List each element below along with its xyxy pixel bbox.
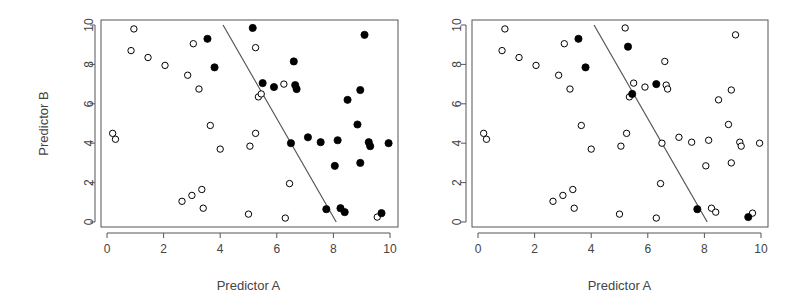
open-data-point xyxy=(207,122,213,128)
y-axis-title: Predictor B xyxy=(36,91,51,155)
open-data-point xyxy=(738,143,744,149)
filled-data-point xyxy=(331,162,338,169)
open-data-point xyxy=(217,146,223,152)
open-data-point xyxy=(659,140,665,146)
filled-data-point xyxy=(287,140,294,147)
open-data-point xyxy=(245,211,251,217)
filled-data-point xyxy=(204,35,211,42)
x-tick-label: 8 xyxy=(330,242,337,256)
filled-data-point xyxy=(582,64,589,71)
filled-data-point xyxy=(694,206,701,213)
open-data-point xyxy=(499,47,505,53)
y-tick-label: 6 xyxy=(82,100,96,107)
x-tick-label: 6 xyxy=(273,242,280,256)
open-data-point xyxy=(676,134,682,140)
scatter-plots: 0246810Predictor A0246810Predictor B 024… xyxy=(0,0,803,308)
y-tick-label: 10 xyxy=(82,18,96,32)
open-data-point xyxy=(728,87,734,93)
filled-data-point xyxy=(624,43,631,50)
open-data-point xyxy=(252,44,258,50)
open-data-point xyxy=(184,72,190,78)
open-data-point xyxy=(713,209,719,215)
open-data-point xyxy=(199,186,205,192)
y-tick-label: 10 xyxy=(450,18,464,32)
open-data-point xyxy=(145,54,151,60)
open-data-point xyxy=(725,121,731,127)
open-data-point xyxy=(732,32,738,38)
open-data-point xyxy=(196,86,202,92)
filled-data-point xyxy=(653,81,660,88)
y-tick-label: 0 xyxy=(82,218,96,225)
filled-data-point xyxy=(293,85,300,92)
open-data-point xyxy=(109,130,115,136)
open-data-point xyxy=(578,122,584,128)
open-data-point xyxy=(630,80,636,86)
plot-frame xyxy=(472,20,768,227)
filled-data-point xyxy=(367,143,374,150)
open-data-point xyxy=(705,137,711,143)
open-data-point xyxy=(622,25,628,31)
x-axis-title: Predictor A xyxy=(217,278,281,293)
open-data-point xyxy=(616,211,622,217)
left-scatter-panel: 0246810Predictor A0246810Predictor B xyxy=(36,18,398,293)
y-tick-label: 6 xyxy=(450,100,464,107)
open-data-point xyxy=(571,205,577,211)
open-data-point xyxy=(128,47,134,53)
filled-data-point xyxy=(385,140,392,147)
open-data-point xyxy=(516,54,522,60)
open-data-point xyxy=(247,143,253,149)
y-tick-label: 2 xyxy=(450,179,464,186)
decision-boundary-line xyxy=(594,25,707,222)
x-tick-label: 4 xyxy=(588,242,595,256)
filled-data-point xyxy=(745,213,752,220)
open-data-point xyxy=(561,41,567,47)
y-tick-label: 0 xyxy=(450,218,464,225)
filled-data-point xyxy=(357,159,364,166)
open-data-point xyxy=(162,62,168,68)
x-axis: 0246810 xyxy=(475,233,768,256)
filled-data-point xyxy=(259,80,266,87)
filled-data-point xyxy=(341,209,348,216)
x-tick-label: 6 xyxy=(644,242,651,256)
open-data-point xyxy=(286,180,292,186)
x-tick-label: 2 xyxy=(160,242,167,256)
filled-data-point xyxy=(304,134,311,141)
open-data-point xyxy=(623,130,629,136)
open-data-point xyxy=(200,205,206,211)
open-data-point xyxy=(664,86,670,92)
filled-data-point xyxy=(575,35,582,42)
filled-data-point xyxy=(290,58,297,65)
series-open xyxy=(109,26,380,222)
filled-data-point xyxy=(357,86,364,93)
open-data-point xyxy=(281,81,287,87)
x-tick-label: 8 xyxy=(701,242,708,256)
filled-data-point xyxy=(378,210,385,217)
open-data-point xyxy=(252,130,258,136)
open-data-point xyxy=(567,86,573,92)
open-data-point xyxy=(728,160,734,166)
y-tick-label: 8 xyxy=(450,61,464,68)
filled-data-point xyxy=(323,206,330,213)
open-data-point xyxy=(282,215,288,221)
plot-frame xyxy=(101,20,398,227)
right-scatter-panel: 0246810Predictor A0246810 xyxy=(450,18,768,293)
open-data-point xyxy=(618,143,624,149)
open-data-point xyxy=(258,91,264,97)
open-data-point xyxy=(653,215,659,221)
open-data-point xyxy=(483,136,489,142)
filled-data-point xyxy=(334,137,341,144)
open-data-point xyxy=(190,41,196,47)
x-axis: 0246810 xyxy=(104,233,397,256)
y-tick-label: 2 xyxy=(82,179,96,186)
open-data-point xyxy=(642,84,648,90)
open-data-point xyxy=(688,139,694,145)
open-data-point xyxy=(560,192,566,198)
x-tick-label: 4 xyxy=(217,242,224,256)
x-tick-label: 0 xyxy=(104,242,111,256)
open-data-point xyxy=(756,140,762,146)
filled-data-point xyxy=(629,90,636,97)
x-tick-label: 10 xyxy=(383,242,397,256)
open-data-point xyxy=(112,136,118,142)
open-data-point xyxy=(550,198,556,204)
filled-data-point xyxy=(211,64,218,71)
